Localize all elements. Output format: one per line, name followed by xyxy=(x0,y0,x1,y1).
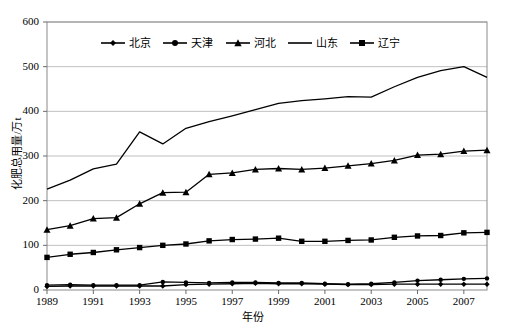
data-point-marker xyxy=(415,278,419,282)
data-point-marker xyxy=(300,281,304,285)
data-point-marker xyxy=(91,250,96,255)
data-point-marker xyxy=(137,245,142,250)
data-point-marker xyxy=(369,237,374,242)
x-tick-label: 1993 xyxy=(115,296,165,307)
y-axis-title: 化肥总用量/万t xyxy=(12,94,23,214)
data-point-marker xyxy=(461,281,466,286)
legend-item-3[interactable]: 山东 xyxy=(287,37,338,49)
data-point-marker xyxy=(114,283,118,287)
data-point-marker xyxy=(484,281,489,286)
x-tick-label: 2005 xyxy=(393,296,443,307)
data-point-marker xyxy=(45,283,49,287)
y-tick-label: 500 xyxy=(0,61,39,72)
data-point-marker xyxy=(253,280,257,284)
legend-item-0[interactable]: 北京 xyxy=(100,37,151,49)
data-point-marker xyxy=(114,247,119,252)
y-tick-label: 0 xyxy=(0,284,39,295)
data-point-marker xyxy=(136,200,143,207)
gridlines xyxy=(47,22,487,245)
legend-item-2[interactable]: 河北 xyxy=(225,37,276,49)
legend-label: 辽宁 xyxy=(378,38,400,49)
x-tick-label: 2003 xyxy=(346,296,396,307)
series-line xyxy=(47,150,487,230)
data-point-marker xyxy=(276,235,281,240)
x-tick-label: 1997 xyxy=(207,296,257,307)
data-point-marker xyxy=(392,235,397,240)
data-point-marker xyxy=(137,283,141,287)
legend-label: 天津 xyxy=(191,38,213,49)
data-point-marker xyxy=(230,280,234,284)
data-point-marker xyxy=(91,283,95,287)
series-2 xyxy=(44,147,491,233)
legend-label: 山东 xyxy=(316,38,338,49)
data-point-marker xyxy=(438,278,442,282)
data-point-marker xyxy=(369,282,373,286)
chart-legend: 北京天津河北山东辽宁 xyxy=(100,33,400,53)
series-line xyxy=(47,67,487,189)
data-point-marker xyxy=(438,233,443,238)
data-point-marker xyxy=(462,277,466,281)
legend-diamond-icon xyxy=(100,37,126,49)
data-point-marker xyxy=(438,281,443,286)
x-tick-label: 2007 xyxy=(439,296,489,307)
legend-item-1[interactable]: 天津 xyxy=(162,37,213,49)
x-tick-label: 1991 xyxy=(68,296,118,307)
data-point-marker xyxy=(253,236,258,241)
data-point-marker xyxy=(346,282,350,286)
legend-triangle-icon xyxy=(225,37,251,49)
data-point-marker xyxy=(230,237,235,242)
data-point-marker xyxy=(484,230,489,235)
y-tick-marks xyxy=(43,22,47,290)
data-point-marker xyxy=(392,280,396,284)
data-point-marker xyxy=(160,243,165,248)
x-tick-label: 2001 xyxy=(300,296,350,307)
data-point-marker xyxy=(68,282,72,286)
series-1 xyxy=(45,276,489,287)
y-tick-label: 600 xyxy=(0,16,39,27)
data-point-marker xyxy=(44,255,49,260)
data-point-marker xyxy=(206,238,211,243)
x-tick-label: 1995 xyxy=(161,296,211,307)
data-point-marker xyxy=(323,282,327,286)
legend-label: 河北 xyxy=(254,38,276,49)
series-3 xyxy=(47,67,487,189)
x-tick-label: 1989 xyxy=(22,296,72,307)
x-tick-label: 1999 xyxy=(254,296,304,307)
line-chart: 0100200300400500600 19891991199319951997… xyxy=(0,0,505,336)
series-layer xyxy=(44,67,491,289)
data-point-marker xyxy=(345,238,350,243)
x-tick-marks xyxy=(47,290,464,294)
legend-square-icon xyxy=(349,37,375,49)
data-point-marker xyxy=(485,276,489,280)
data-point-marker xyxy=(299,239,304,244)
y-tick-label: 100 xyxy=(0,239,39,250)
legend-label: 北京 xyxy=(129,38,151,49)
data-point-marker xyxy=(207,281,211,285)
data-point-marker xyxy=(184,280,188,284)
x-axis-title: 年份 xyxy=(0,312,505,323)
data-point-marker xyxy=(276,281,280,285)
legend-item-4[interactable]: 辽宁 xyxy=(349,37,400,49)
legend-none-icon xyxy=(287,37,313,49)
data-point-marker xyxy=(161,280,165,284)
data-point-marker xyxy=(322,239,327,244)
legend-circle-icon xyxy=(162,37,188,49)
data-point-marker xyxy=(67,252,72,257)
data-point-marker xyxy=(461,230,466,235)
data-point-marker xyxy=(415,233,420,238)
data-point-marker xyxy=(183,241,188,246)
